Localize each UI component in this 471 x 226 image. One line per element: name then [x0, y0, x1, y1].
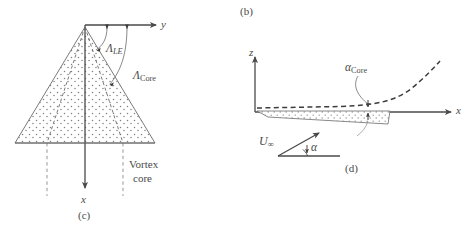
vortex-core-label-line2: core [133, 173, 152, 184]
wing-side-profile [257, 111, 390, 124]
alpha-core-subscript: Core [351, 66, 367, 75]
figure-root: (b) y x ΛLE ΛCore Vortex core (c) z x αC… [0, 0, 471, 226]
y-axis-tick-le [105, 25, 109, 30]
panel-c-caption: (c) [78, 210, 90, 221]
panel-c-group [15, 25, 156, 197]
sideview-x-axis-label: x [456, 105, 461, 116]
sweep-core-label: ΛCore [133, 70, 156, 82]
angle-of-attack-label: α [311, 142, 317, 154]
panel-b-caption: (b) [240, 6, 253, 17]
panel-d-caption: (d) [345, 163, 358, 174]
sideview-z-axis-label: z [249, 47, 253, 58]
freestream-velocity-label: U∞ [259, 135, 274, 147]
planform-y-axis-label: y [161, 19, 166, 30]
sweep-le-subscript: LE [113, 47, 123, 56]
alpha-core-leader [356, 76, 368, 104]
sweep-core-symbol: Λ [133, 69, 140, 81]
sweep-le-label: ΛLE [106, 43, 123, 55]
vortex-core-label-line1: Vortex [129, 159, 158, 170]
alpha-core-angle-leader [357, 121, 368, 136]
figure-vector-layer [0, 0, 471, 226]
sweep-core-subscript: Core [140, 74, 156, 83]
planform-x-axis-label: x [81, 194, 86, 205]
sweep-le-symbol: Λ [106, 42, 113, 54]
y-axis-tick-core [125, 25, 129, 30]
freestream-symbol: U [259, 134, 268, 148]
alpha-core-label: αCore [345, 62, 367, 74]
freestream-subscript: ∞ [268, 139, 274, 149]
